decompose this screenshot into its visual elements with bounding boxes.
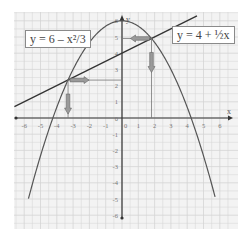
x-tick-label: -2: [87, 122, 92, 129]
x-tick-label: 1: [137, 122, 140, 129]
parabola-equation-label: y = 6 – x²/3: [25, 30, 91, 48]
x-tick-label: -4: [54, 122, 60, 129]
y-tick-label: 1: [115, 98, 118, 105]
y-tick-label: 0: [115, 115, 118, 122]
x-tick-label: 2: [153, 122, 156, 129]
x-tick-label: 3: [169, 122, 172, 129]
y-tick-label: -2: [113, 147, 118, 154]
y-tick-label: 2: [115, 82, 118, 89]
y-tick-label: 5: [115, 34, 118, 41]
y-tick-label: -6: [113, 212, 119, 219]
x-tick-label: 5: [202, 122, 205, 129]
x-axis-label: x: [227, 107, 231, 116]
x-axis-start-dot: [14, 116, 17, 119]
x-tick-label: -6: [21, 122, 27, 129]
line-equation-label: y = 4 + ½x: [172, 26, 235, 44]
x-tick-label: -3: [70, 122, 75, 129]
x-tick-label: -1: [103, 122, 108, 129]
y-tick-label: -1: [113, 131, 118, 138]
y-tick-label: -3: [113, 163, 118, 170]
y-axis-end-dot: [120, 216, 123, 219]
y-tick-label: -4: [113, 179, 119, 186]
y-tick-label: -5: [113, 196, 118, 203]
x-tick-label: -5: [38, 122, 43, 129]
y-axis-label: y: [126, 15, 130, 24]
x-tick-label: 0: [124, 122, 127, 129]
y-tick-label: 3: [115, 66, 118, 73]
